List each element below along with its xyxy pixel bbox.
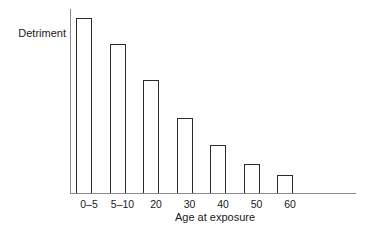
bar [210, 145, 226, 194]
plot-area: 0–55–102030405060 [70, 9, 356, 194]
y-axis-title: Detriment [18, 27, 66, 40]
bar-group: 0–5 [73, 9, 107, 194]
x-axis-line [70, 193, 356, 194]
bar [76, 18, 92, 194]
bar-group: 40 [207, 9, 241, 194]
x-tick-label: 60 [268, 198, 312, 210]
bar-group: 20 [140, 9, 174, 194]
bar-group: 60 [274, 9, 308, 194]
bar [143, 80, 159, 194]
x-axis-title: Age at exposure [150, 211, 280, 224]
bar-group: 50 [241, 9, 275, 194]
bar [277, 175, 293, 194]
bar-group: 5–10 [107, 9, 141, 194]
bar-group: 30 [174, 9, 208, 194]
bar [244, 164, 260, 194]
bar [177, 118, 193, 194]
bar [110, 44, 126, 194]
detriment-vs-age-bar-chart: Detriment 0–55–102030405060 Age at expos… [0, 0, 369, 238]
